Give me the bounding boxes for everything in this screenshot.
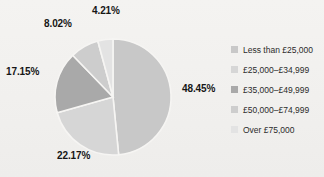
legend-item-label: £35,000–£49,999 [243, 85, 309, 95]
legend-item-label: £50,000–£74,999 [243, 105, 309, 115]
slice-value-label-1: 22.17% [57, 150, 90, 161]
pie-chart-figure: 48.45% 22.17% 17.15% 8.02% 4.21% Less th… [0, 0, 324, 177]
slice-value-label-4: 4.21% [92, 5, 120, 16]
legend-swatch-icon [231, 86, 238, 93]
legend-item[interactable]: Less than £25,000 [231, 44, 324, 55]
legend-item-label: Over £75,000 [243, 125, 295, 135]
slice-value-label-0: 48.45% [182, 83, 215, 94]
slice-value-label-2: 17.15% [6, 66, 39, 77]
legend-swatch-icon [231, 66, 238, 73]
legend-item[interactable]: £50,000–£74,999 [231, 104, 324, 115]
legend-item[interactable]: £25,000–£34,999 [231, 64, 324, 75]
legend-item[interactable]: Over £75,000 [231, 124, 324, 135]
legend-item[interactable]: £35,000–£49,999 [231, 84, 324, 95]
legend-item-label: £25,000–£34,999 [243, 65, 309, 75]
legend-swatch-icon [231, 46, 238, 53]
chart-legend: Less than £25,000£25,000–£34,999£35,000–… [231, 44, 324, 135]
legend-swatch-icon [231, 106, 238, 113]
legend-item-label: Less than £25,000 [243, 45, 313, 55]
pie-slice-group [55, 39, 171, 155]
slice-value-label-3: 8.02% [44, 18, 72, 29]
legend-swatch-icon [231, 126, 238, 133]
pie-slice [113, 39, 171, 155]
